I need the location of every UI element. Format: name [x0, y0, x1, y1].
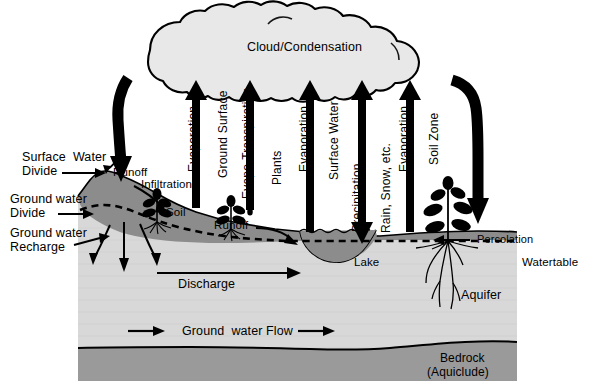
- flux-label-evapo-transpiration: Evapo-Transpiration: [240, 88, 254, 199]
- flux-label-evaporation-2: Evaporation: [297, 106, 311, 172]
- ground-water-recharge-label: Ground water Recharge: [10, 226, 87, 254]
- plant-icon: [247, 208, 253, 216]
- flux-label-evaporation-1: Evaporation: [186, 106, 200, 172]
- infiltration-label: Infiltration: [141, 178, 192, 191]
- flux-label-ground-surface: Ground Surface: [216, 90, 230, 178]
- flux-label-plants: Plants: [270, 150, 284, 185]
- ground-water-divide-label: Ground water Divide: [10, 192, 87, 220]
- soil-label: Soil: [166, 206, 186, 219]
- diagram-canvas: [0, 0, 589, 389]
- aquifer-label: Aquifer: [461, 288, 501, 302]
- flux-label-surface-water: Surface Water: [327, 101, 341, 180]
- flux-label-soil-zone: Soil Zone: [427, 113, 441, 166]
- cloud-label: Cloud/Condensation: [247, 40, 362, 54]
- discharge-label: Discharge: [178, 277, 235, 291]
- ground-water-flow-label: Ground water Flow: [182, 324, 293, 338]
- hydrologic-cycle-diagram: Cloud/Condensation Surface Water Divide …: [0, 0, 589, 389]
- flux-label-rain-snow-etc: Rain, Snow, etc.: [379, 143, 393, 233]
- watertable-label: Watertable: [522, 256, 578, 269]
- surface-water-divide-label: Surface Water Divide: [22, 150, 106, 178]
- runoff-left-label: Runoff: [113, 166, 147, 179]
- flux-label-precipitation: Precipitation: [350, 163, 364, 232]
- percolation-label: Percolation: [477, 233, 533, 245]
- flux-label-evaporation-3: Evaporation: [397, 106, 411, 172]
- bedrock-label-line1: Bedrock: [440, 352, 485, 365]
- bedrock-label-line2: (Aquiclude): [427, 366, 489, 379]
- lake-label: Lake: [354, 256, 379, 269]
- runoff-right-label: Runoff: [214, 219, 248, 232]
